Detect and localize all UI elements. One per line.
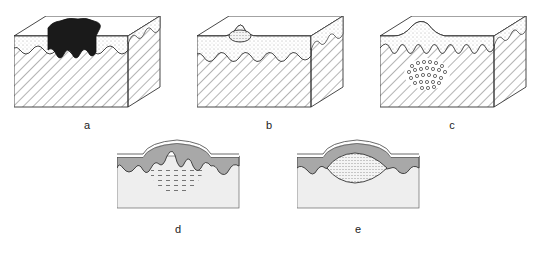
panel-label-c: c: [442, 119, 462, 131]
cross-section-e: [297, 138, 421, 210]
panel-e: e: [297, 138, 421, 210]
dark-lesion: [48, 18, 100, 58]
panel-a: a: [14, 16, 164, 111]
skin-block-diagram-c: [380, 16, 530, 111]
skin-block-diagram-b: [197, 16, 347, 111]
panel-label-e: e: [348, 223, 368, 235]
panel-b: b: [197, 16, 347, 111]
cross-section-d: [117, 138, 241, 210]
panel-label-a: a: [77, 119, 97, 131]
oval-lesion: [229, 30, 251, 42]
panel-label-b: b: [259, 119, 279, 131]
panel-c: c: [380, 16, 530, 111]
panel-d: d: [117, 138, 241, 210]
panel-label-d: d: [168, 223, 188, 235]
skin-block-diagram-a: [14, 16, 164, 111]
